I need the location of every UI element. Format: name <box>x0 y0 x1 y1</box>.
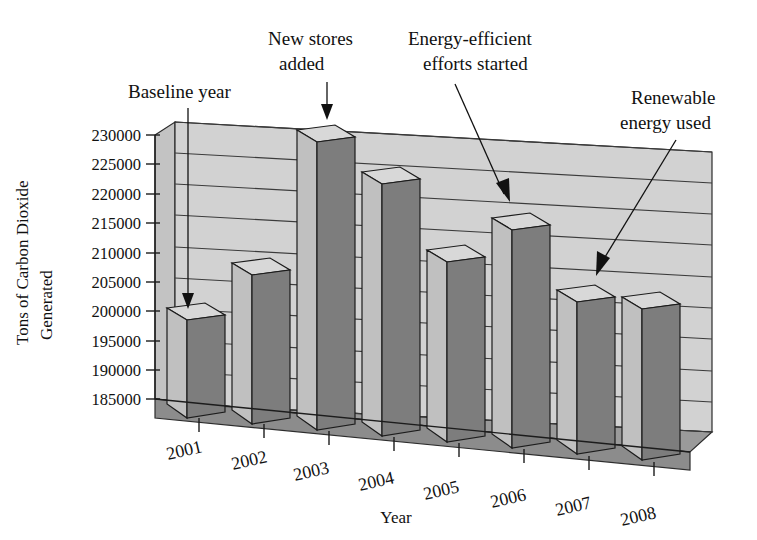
annotation-new-stores-added-line-2: added <box>279 53 325 74</box>
x-tick-label-2006: 2006 <box>488 484 528 512</box>
y-tick-label-220000: 220000 <box>92 185 142 204</box>
x-tick-label-2005: 2005 <box>421 476 461 504</box>
arrow-down-icon <box>321 104 333 120</box>
bar-2004 <box>362 167 420 436</box>
y-tick-label-210000: 210000 <box>92 244 142 263</box>
annotation-renewable-line-1: Renewable <box>631 87 715 108</box>
y-tick-label-225000: 225000 <box>92 155 142 174</box>
bar-2002 <box>232 258 290 424</box>
annotation-baseline-year-line-1: Baseline year <box>128 81 232 102</box>
x-tick-label-2002: 2002 <box>229 446 269 474</box>
x-tick-label-2004: 2004 <box>356 467 396 495</box>
x-tick-label-2008: 2008 <box>618 502 658 530</box>
y-axis-title-line-1: Tons of Carbon Dioxide <box>13 180 32 345</box>
co2-bar-chart: 230000 225000 220000 215000 210000 20500… <box>0 0 757 540</box>
x-axis-title: Year <box>380 508 412 527</box>
bar-2003 <box>297 125 355 430</box>
y-tick-label-190000: 190000 <box>92 361 142 380</box>
bar-2006 <box>492 213 550 448</box>
y-tick-label-230000: 230000 <box>92 126 142 145</box>
y-tick-label-215000: 215000 <box>92 214 142 233</box>
x-tick-label-2001: 2001 <box>164 436 204 464</box>
bar-2005 <box>427 245 485 442</box>
y-tick-label-195000: 195000 <box>92 332 142 351</box>
annotation-new-stores-added-line-1: New stores <box>268 28 353 49</box>
y-tick-label-200000: 200000 <box>92 302 142 321</box>
annotation-energy-efficient-line-1: Energy-efficient <box>408 28 533 49</box>
y-axis-title-line-2: Generated <box>37 270 56 340</box>
annotation-new-stores-added: New stores added <box>268 28 353 120</box>
annotation-energy-efficient-line-2: efforts started <box>423 53 528 74</box>
x-tick-label-2003: 2003 <box>291 457 331 485</box>
y-axis-title: Tons of Carbon Dioxide Generated <box>13 180 56 345</box>
plot-area <box>155 122 712 470</box>
y-tick-label-185000: 185000 <box>92 390 142 409</box>
y-tick-label-205000: 205000 <box>92 273 142 292</box>
bar-2007 <box>557 285 615 454</box>
annotation-renewable-line-2: energy used <box>620 112 711 133</box>
x-tick-label-2007: 2007 <box>553 492 593 520</box>
bar-2008 <box>622 292 680 460</box>
y-tick-labels: 230000 225000 220000 215000 210000 20500… <box>92 126 142 409</box>
chart-canvas: 230000 225000 220000 215000 210000 20500… <box>0 0 757 540</box>
